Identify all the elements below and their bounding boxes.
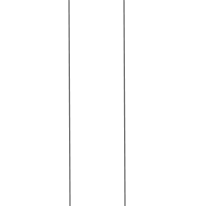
blank-canvas (0, 0, 205, 207)
left-vertical-line (69, 0, 70, 206)
right-vertical-line (124, 0, 125, 206)
vertical-lines-drawing (0, 0, 205, 207)
